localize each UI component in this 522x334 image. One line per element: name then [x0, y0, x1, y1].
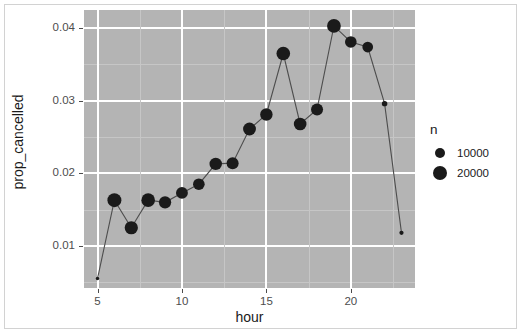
data-point	[141, 193, 155, 207]
x-tick-mark	[351, 289, 352, 293]
data-point	[294, 118, 307, 131]
data-point	[107, 193, 121, 207]
data-point	[227, 157, 239, 169]
legend-item-label: 10000	[457, 147, 489, 159]
data-point	[327, 19, 341, 33]
x-tick-mark	[266, 289, 267, 293]
y-tick-label: 0.02	[53, 166, 75, 178]
circle-icon	[435, 148, 445, 158]
legend-item: 20000	[429, 163, 515, 183]
chart-screenshot: 0.010.020.030.04 5101520 hour prop_cance…	[0, 0, 522, 334]
data-point	[210, 158, 222, 170]
x-tick-label: 10	[162, 295, 202, 307]
data-point	[276, 47, 290, 61]
data-point	[176, 187, 188, 199]
y-tick-mark	[79, 28, 83, 29]
x-tick-mark	[182, 289, 183, 293]
legend-item: 10000	[429, 143, 515, 163]
legend: n 1000020000	[429, 122, 515, 183]
y-tick-mark	[79, 173, 83, 174]
data-point	[362, 42, 373, 53]
x-tick-label: 15	[246, 295, 286, 307]
x-tick-label: 20	[331, 295, 371, 307]
data-line	[98, 26, 402, 279]
legend-items: 1000020000	[429, 143, 515, 183]
legend-key-dot	[429, 166, 451, 180]
legend-key-dot	[429, 148, 451, 158]
y-tick-label: 0.04	[53, 21, 75, 33]
y-tick-mark	[79, 246, 83, 247]
data-point	[96, 277, 99, 280]
data-point	[399, 231, 403, 235]
x-tick-label: 5	[78, 295, 118, 307]
legend-title: n	[429, 122, 515, 137]
data-point	[260, 108, 272, 120]
data-point	[159, 196, 171, 208]
x-axis-title: hour	[84, 309, 415, 325]
circle-icon	[433, 166, 447, 180]
legend-item-label: 20000	[457, 167, 489, 179]
data-point	[125, 221, 138, 234]
y-axis-title: prop_cancelled	[10, 42, 26, 242]
data-point	[382, 101, 387, 106]
x-tick-mark	[98, 289, 99, 293]
data-layer	[84, 10, 415, 288]
data-point	[345, 36, 357, 48]
plot-panel	[84, 10, 415, 288]
y-tick-label: 0.03	[53, 94, 75, 106]
data-point	[311, 103, 323, 115]
data-point	[193, 178, 205, 190]
data-point	[243, 123, 256, 136]
y-tick-label: 0.01	[53, 239, 75, 251]
y-tick-mark	[79, 101, 83, 102]
